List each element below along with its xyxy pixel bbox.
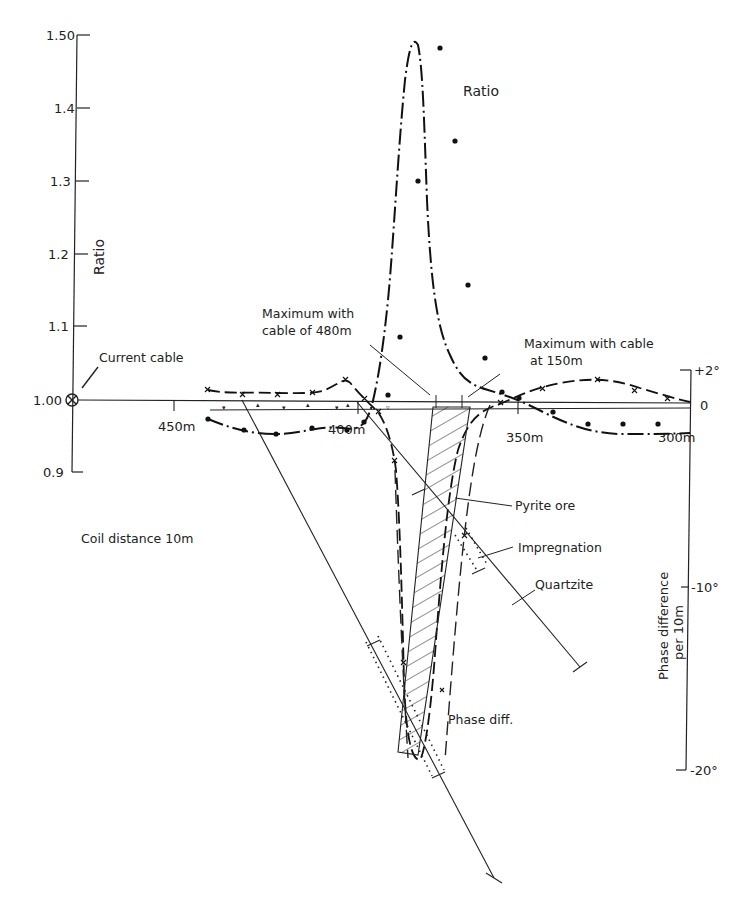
tick-1-3: 1.3 <box>50 174 71 189</box>
pyrite-ore-label: Pyrite ore <box>515 498 576 513</box>
phase-diff-label: Phase diff. <box>448 712 513 727</box>
tick-1-50: 1.50 <box>46 28 75 43</box>
pyrite-ore-body <box>398 407 470 755</box>
distance-axis <box>78 400 690 414</box>
impregnation-label: Impregnation <box>518 540 602 555</box>
svg-text:▾: ▾ <box>282 404 286 412</box>
tick-350m: 350m <box>506 430 543 445</box>
phase-axis-label-1: Phase difference <box>656 572 671 680</box>
max-150-label-2: at 150m <box>530 353 583 368</box>
max-480-label-1: Maximum with <box>262 306 354 321</box>
tick-1-1: 1.1 <box>48 319 69 334</box>
phase-axis-label-2: per 10m <box>671 605 686 660</box>
coil-distance-label: Coil distance 10m <box>81 531 193 546</box>
svg-text:▴: ▴ <box>346 401 350 409</box>
max-480-label-2: cable of 480m <box>262 323 352 338</box>
tick-minus10: -10° <box>691 580 719 595</box>
tick-450m: 450m <box>158 419 195 434</box>
max-150-label-1: Maximum with cable <box>524 336 654 351</box>
ratio-axis <box>72 35 90 472</box>
svg-text:▾: ▾ <box>335 404 339 412</box>
current-cable-label: Current cable <box>99 350 184 365</box>
tick-1-4: 1.4 <box>54 101 75 116</box>
tick-plus2: +2° <box>694 363 720 378</box>
tick-minus20: -20° <box>690 763 718 778</box>
tick-1-2: 1.2 <box>48 247 69 262</box>
svg-text:▾: ▾ <box>222 404 226 412</box>
ratio-series <box>205 42 690 437</box>
svg-text:▿: ▿ <box>386 404 390 412</box>
ratio-axis-label: Ratio <box>91 239 107 275</box>
svg-text:▴: ▴ <box>306 401 310 409</box>
quartzite-label: Quartzite <box>535 577 593 592</box>
chart-canvas: 1.50 1.4 1.3 1.2 1.1 1.00 0.9 Ratio Curr… <box>0 0 756 904</box>
svg-text:▴: ▴ <box>256 401 260 409</box>
tick-0: 0 <box>700 398 708 413</box>
maximum-pointers <box>370 345 500 408</box>
tick-0-9: 0.9 <box>43 465 64 480</box>
ratio-curve-label: Ratio <box>463 83 499 99</box>
tick-1-00: 1.00 <box>33 393 62 408</box>
